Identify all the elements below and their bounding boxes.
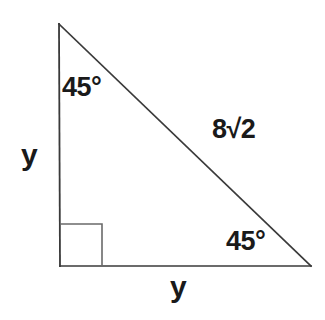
side-label-hypotenuse: 8√2	[212, 116, 255, 143]
diagram-background	[0, 0, 325, 320]
angle-label-bottom-right: 45°	[226, 228, 265, 255]
side-label-horizontal-leg: y	[170, 272, 187, 302]
side-label-vertical-leg: y	[21, 140, 38, 170]
triangle-diagram	[0, 0, 325, 320]
angle-label-top: 45°	[62, 74, 101, 101]
triangle-leg-vertical	[59, 24, 60, 266]
